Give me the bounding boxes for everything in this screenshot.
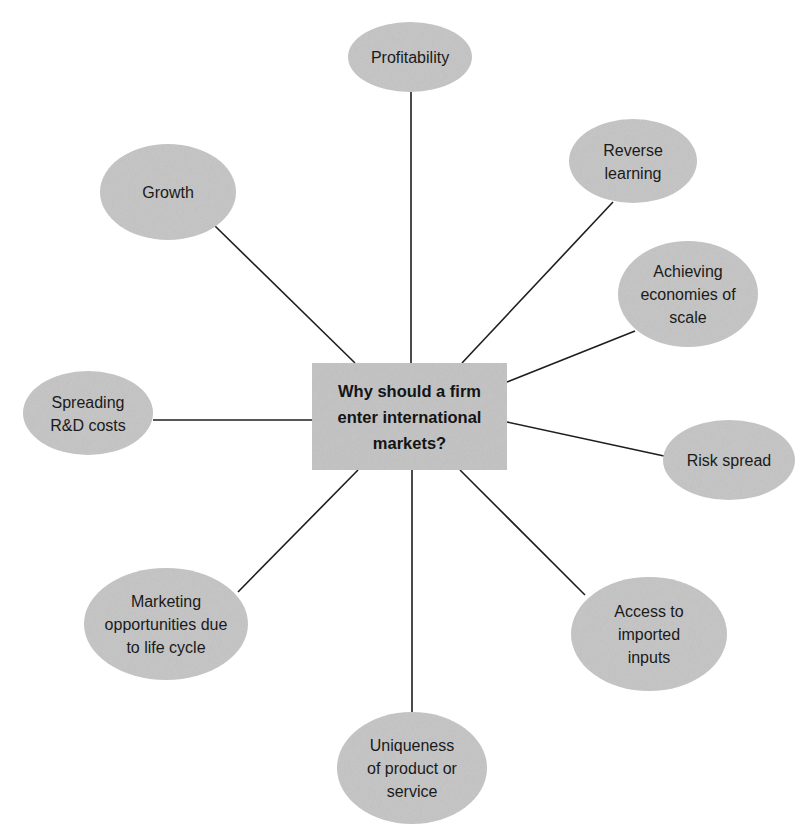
node-label-access-to-imported-inputs: Access to [614,603,683,620]
mind-map-diagram: ProfitabilityReverselearningAchievingeco… [0,0,811,831]
node-label-access-to-imported-inputs: inputs [628,649,671,666]
center-question-text: markets? [373,434,446,452]
node-economies-of-scale: Achievingeconomies ofscale [618,241,758,347]
center-question-text: Why should a firm [338,382,481,400]
node-marketing-opportunities: Marketingopportunities dueto life cycle [84,568,248,680]
node-label-spreading-rd-costs: R&D costs [50,417,126,434]
connector-line-economies-of-scale [507,331,635,382]
connector-line-reverse-learning [462,202,613,363]
node-risk-spread: Risk spread [663,420,795,500]
node-label-uniqueness-of-product: of product or [367,760,458,777]
central-question: Why should a firmenter internationalmark… [312,363,507,470]
node-label-economies-of-scale: Achieving [653,263,722,280]
connector-line-access-to-imported-inputs [460,470,585,595]
node-label-profitability: Profitability [371,49,449,66]
node-label-marketing-opportunities: Marketing [131,593,201,610]
node-label-uniqueness-of-product: service [387,783,438,800]
node-label-risk-spread: Risk spread [687,452,771,469]
node-label-spreading-rd-costs: Spreading [52,394,125,411]
node-label-reverse-learning: Reverse [603,142,663,159]
node-label-economies-of-scale: economies of [640,286,736,303]
node-label-growth: Growth [142,184,194,201]
connector-line-marketing-opportunities [238,470,358,592]
node-label-reverse-learning: learning [605,165,662,182]
node-label-economies-of-scale: scale [669,309,706,326]
node-label-marketing-opportunities: to life cycle [126,639,205,656]
node-growth: Growth [100,144,236,240]
node-spreading-rd-costs: SpreadingR&D costs [23,371,153,455]
node-label-marketing-opportunities: opportunities due [105,616,228,633]
node-label-access-to-imported-inputs: imported [618,626,680,643]
connector-line-risk-spread [507,422,664,456]
node-reverse-learning: Reverselearning [569,119,697,203]
node-label-uniqueness-of-product: Uniqueness [370,737,455,754]
node-profitability: Profitability [348,22,472,92]
node-access-to-imported-inputs: Access toimportedinputs [571,577,727,691]
node-uniqueness-of-product: Uniquenessof product orservice [337,712,487,824]
node-ellipse-spreading-rd-costs [23,371,153,455]
node-ellipse-reverse-learning [569,119,697,203]
center-question-text: enter international [338,408,482,426]
connector-line-growth [215,226,355,363]
